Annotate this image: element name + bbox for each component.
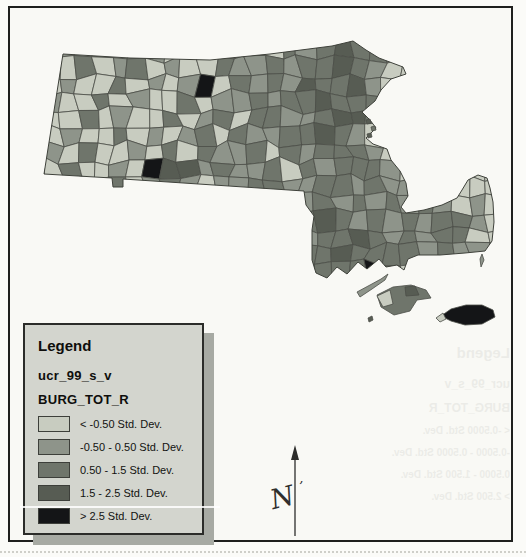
town-cell (499, 129, 511, 148)
nantucket (441, 305, 495, 325)
town-cell (454, 124, 468, 147)
town-cell (160, 280, 178, 301)
town-cell (24, 75, 44, 98)
town-cell (417, 42, 439, 60)
town-cell (161, 214, 180, 230)
town-cell (130, 264, 148, 282)
town-cell (109, 280, 130, 298)
town-cell (417, 242, 439, 264)
town-cell (449, 279, 471, 299)
town-cell (11, 279, 28, 301)
town-cell (10, 8, 25, 22)
town-cell (450, 55, 471, 75)
town-cell (145, 263, 164, 284)
town-cell (486, 94, 506, 112)
town-cell (62, 23, 80, 42)
town-cell (79, 162, 96, 180)
town-cell (484, 194, 507, 216)
legend-box: Legend ucr_99_s_v BURG_TOT_R < -0.50 Std… (23, 323, 204, 535)
town-cell (245, 197, 266, 210)
town-cell (26, 279, 47, 299)
town-cell (10, 147, 29, 163)
scanned-map-page: { "page": {"background": "#fbfbf8"}, "fr… (0, 0, 526, 557)
north-arrow-letter: N (266, 479, 299, 515)
town-cell (449, 92, 471, 108)
town-cell (11, 93, 30, 114)
town-cell (26, 262, 48, 282)
town-cell (145, 145, 163, 160)
town-cell (437, 159, 454, 182)
town-cell (211, 228, 228, 249)
town-cell (143, 8, 167, 30)
town-cell (115, 227, 132, 249)
town-cell (128, 8, 149, 25)
town-cell (403, 38, 418, 60)
town-cell (10, 109, 30, 125)
town-cell (130, 229, 147, 250)
town-cell (504, 175, 511, 198)
town-cell (26, 141, 44, 163)
town-cell (110, 209, 132, 233)
town-cell (26, 157, 44, 182)
town-cell (57, 227, 81, 250)
town-cell (448, 43, 472, 56)
town-cell (113, 263, 131, 281)
town-cell (485, 75, 504, 96)
town-cell (448, 140, 465, 162)
town-cell (398, 94, 423, 113)
town-cell (76, 263, 98, 282)
town-cell (40, 230, 66, 249)
town-cell (196, 279, 219, 300)
town-cell (262, 248, 284, 268)
town-cell (26, 245, 48, 264)
town-cell (42, 262, 60, 282)
town-cell (261, 21, 284, 41)
town-cell (26, 192, 46, 211)
town-cell (179, 247, 201, 265)
town-cell (414, 59, 439, 77)
town-cell (10, 225, 29, 251)
town-cell (193, 210, 217, 229)
town-cell (262, 230, 282, 250)
legend-items: < -0.50 Std. Dev.-0.50 - 0.50 Std. Dev.0… (38, 416, 202, 523)
town-cell (228, 208, 251, 228)
town-cell (10, 72, 27, 96)
town-cell (128, 193, 149, 214)
town-cell (499, 106, 511, 130)
town-cell (467, 107, 488, 131)
town-cell (96, 21, 117, 46)
town-cell (505, 245, 511, 265)
town-cell (432, 106, 453, 127)
town-cell (131, 24, 149, 43)
town-cell (504, 159, 511, 177)
town-cell (352, 11, 365, 25)
town-cell (502, 60, 511, 80)
town-cell (416, 11, 436, 29)
town-cell (314, 262, 331, 280)
town-cell (382, 8, 404, 29)
town-cell (482, 8, 503, 29)
town-cell (42, 277, 59, 301)
town-cell (364, 21, 384, 46)
town-cell (330, 10, 352, 25)
town-cell (177, 279, 201, 300)
town-cell (416, 22, 436, 45)
town-cell (263, 261, 284, 283)
town-cell (113, 21, 133, 46)
town-cell (10, 211, 29, 233)
town-cell (150, 109, 164, 128)
town-cell (46, 245, 65, 262)
town-cell (23, 21, 46, 45)
town-cell (264, 278, 283, 301)
town-cell (62, 8, 81, 27)
town-cell (503, 90, 511, 108)
legend-item: -0.50 - 0.50 Std. Dev. (38, 439, 202, 454)
town-cell (113, 244, 130, 268)
town-cell (249, 227, 264, 250)
town-cell (434, 42, 456, 60)
town-cell (506, 226, 511, 249)
town-cell (282, 210, 301, 230)
legend-item: 1.5 - 2.5 Std. Dev. (38, 485, 202, 500)
legend-swatch (38, 439, 70, 455)
town-cell (470, 194, 486, 217)
